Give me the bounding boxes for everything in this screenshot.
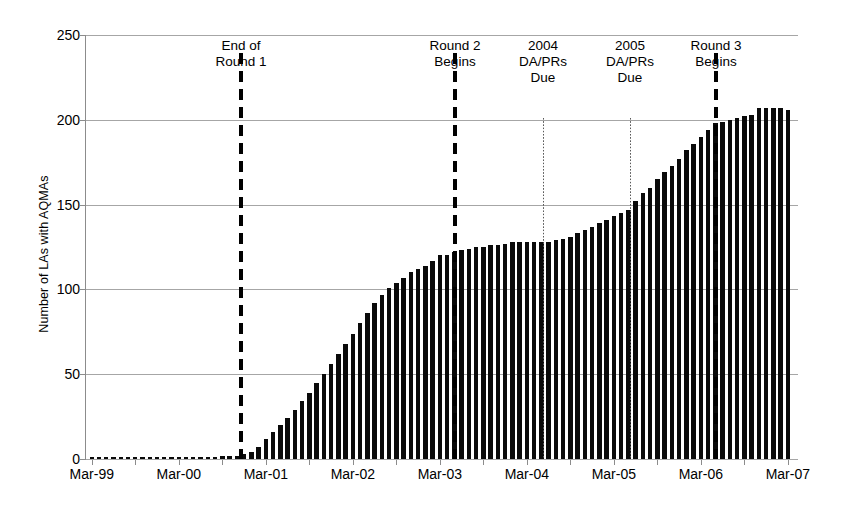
x-axis-tick-label: Mar-05: [564, 466, 664, 482]
bar: [314, 383, 318, 459]
bar: [438, 255, 442, 459]
x-axis-tick-label: Mar-04: [477, 466, 577, 482]
x-axis-tick-label: Mar-99: [42, 466, 142, 482]
bar: [430, 261, 434, 459]
bar: [220, 456, 224, 459]
x-axis-tick-label: Mar-01: [216, 466, 316, 482]
bar: [394, 283, 398, 459]
bar: [648, 188, 652, 459]
bar: [503, 244, 507, 459]
gridline: [86, 459, 798, 460]
bar: [155, 457, 159, 459]
bar: [293, 410, 297, 459]
bar: [97, 457, 101, 459]
bar: [474, 247, 478, 459]
x-axis-tickmark: [396, 460, 397, 465]
bar: [111, 457, 115, 459]
x-axis-tickmark: [483, 460, 484, 465]
bar: [307, 393, 311, 459]
bar: [416, 269, 420, 459]
bar: [177, 457, 181, 459]
bar: [343, 344, 347, 459]
bar: [655, 179, 659, 459]
x-axis-tickmark: [179, 460, 180, 465]
aqma-bar-chart: Number of LAs with AQMAs 050100150200250…: [0, 0, 853, 522]
bar: [575, 233, 579, 459]
bar: [126, 457, 130, 459]
x-axis-tickmark: [440, 460, 441, 465]
bar: [409, 272, 413, 459]
bar: [568, 237, 572, 459]
bar: [191, 457, 195, 459]
x-axis-tickmark: [570, 460, 571, 465]
bar: [322, 374, 326, 459]
bar: [90, 457, 94, 459]
x-axis-tickmark: [614, 460, 615, 465]
bar: [329, 364, 333, 459]
x-axis-tick-label: Mar-00: [129, 466, 229, 482]
annotation-line-round-2-begins: [453, 53, 457, 459]
bar: [227, 456, 231, 459]
bar: [264, 439, 268, 459]
bar: [786, 110, 790, 459]
x-axis-tickmark: [92, 460, 93, 465]
bar: [677, 159, 681, 459]
annotation-line-round-3-begins: [714, 53, 718, 459]
x-axis-tickmark: [657, 460, 658, 465]
bar: [597, 223, 601, 459]
bar: [148, 457, 152, 459]
bar: [699, 137, 703, 459]
bar: [510, 242, 514, 459]
bar: [771, 108, 775, 459]
bar: [496, 245, 500, 459]
bar: [300, 401, 304, 459]
bar: [728, 120, 732, 459]
x-axis-tickmark: [266, 460, 267, 465]
bar: [387, 288, 391, 459]
x-axis-tick-label: Mar-06: [651, 466, 751, 482]
bar: [612, 216, 616, 459]
bar: [546, 242, 550, 459]
bar: [467, 249, 471, 459]
bar: [670, 166, 674, 459]
bar: [749, 115, 753, 459]
annotation-line-end-of-round-1: [239, 53, 243, 459]
x-axis-tickmark: [527, 460, 528, 465]
bar: [590, 227, 594, 459]
bar: [365, 313, 369, 459]
bar: [358, 323, 362, 459]
x-axis-tick-label: Mar-07: [738, 466, 838, 482]
bar: [336, 354, 340, 459]
x-axis-tickmark: [353, 460, 354, 465]
x-axis-tickmark: [788, 460, 789, 465]
bar: [423, 266, 427, 459]
bar: [706, 130, 710, 459]
x-axis-tickmark: [744, 460, 745, 465]
annotation-line-2005-dapr-due: [630, 118, 631, 459]
bar: [459, 250, 463, 459]
bar: [720, 122, 724, 460]
x-axis-tick-label: Mar-02: [303, 466, 403, 482]
bar: [778, 108, 782, 459]
bar: [764, 108, 768, 459]
annotation-label-end-of-round-1: End of Round 1: [176, 38, 306, 70]
bar: [488, 245, 492, 459]
bar: [213, 457, 217, 459]
bar: [445, 255, 449, 459]
annotation-label-round-3-begins: Round 3 Begins: [651, 38, 781, 70]
annotation-line-2004-dapr-due: [543, 118, 544, 459]
bar: [684, 150, 688, 459]
x-axis-tickmark: [222, 460, 223, 465]
bar: [278, 425, 282, 459]
bar: [619, 213, 623, 459]
bar: [104, 457, 108, 459]
bar: [604, 220, 608, 459]
bar: [532, 242, 536, 459]
bar: [285, 418, 289, 459]
bar: [554, 240, 558, 459]
bar: [119, 457, 123, 459]
plot-area: [86, 35, 798, 459]
bar: [169, 457, 173, 459]
bar: [525, 242, 529, 459]
x-axis-tickmark: [135, 460, 136, 465]
